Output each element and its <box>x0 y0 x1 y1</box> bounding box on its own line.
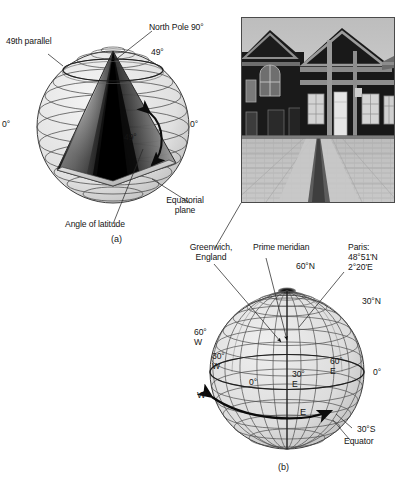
caption-panel-a: (a) <box>111 234 122 244</box>
caption-panel-b: (b) <box>278 462 289 472</box>
label-equatorial-plane: Equatorial plane <box>158 196 212 216</box>
label-49-degrees-arc: 49° <box>124 133 137 143</box>
label-60-north: 60°N <box>296 262 315 272</box>
label-0-degrees-left-a: 0° <box>2 120 10 130</box>
label-49th-parallel: 49th parallel <box>6 37 52 47</box>
label-greenwich-england: Greenwich, England <box>180 243 242 263</box>
label-30-east: 30° E <box>292 370 305 390</box>
panel-b-globe <box>210 258 364 449</box>
label-prime-meridian: Prime meridian <box>253 243 309 253</box>
label-30-south: 30°S <box>357 425 375 435</box>
label-0-degrees-right-b: 0° <box>373 368 381 378</box>
label-30-west: 30° W <box>212 352 225 372</box>
label-30-north: 30°N <box>362 297 381 307</box>
label-direction-west: W <box>197 390 206 401</box>
label-60-east: 60° E <box>330 357 343 377</box>
label-49-degrees-top: 49° <box>151 48 164 58</box>
label-0-degrees-center-b: 0° <box>249 378 257 388</box>
label-paris-coordinates: Paris: 48°51'N 2°20'E <box>348 243 378 273</box>
figure-root: partial text cut off at top edge <box>0 0 405 486</box>
label-angle-of-latitude: Angle of latitude <box>65 220 125 230</box>
greenwich-prime-meridian-photo <box>241 17 395 203</box>
label-60-west: 60° W <box>194 328 207 348</box>
label-direction-east: E <box>300 407 306 418</box>
label-equator: Equator <box>344 437 373 447</box>
label-north-pole: North Pole 90° <box>149 23 204 33</box>
label-0-degrees-right-a: 0° <box>190 120 198 130</box>
